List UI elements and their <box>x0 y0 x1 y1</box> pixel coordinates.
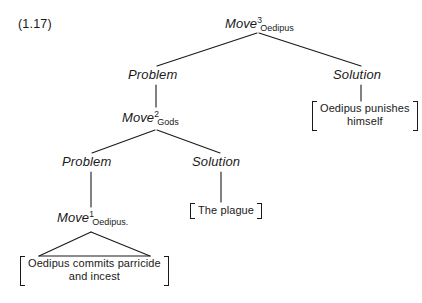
move-base-label: Move <box>57 210 89 225</box>
move-subscript: Oedipus <box>260 23 294 33</box>
bracket-group: Oedipus punishes himself <box>311 101 419 131</box>
terminal-line-1: Oedipus punishes <box>320 102 410 115</box>
terminal-line-1: The plague <box>198 204 254 217</box>
move-base-label: Move <box>122 110 154 125</box>
bracket-right-icon <box>164 256 169 286</box>
bracket-right-icon <box>413 101 418 131</box>
edge-root-to-solution <box>259 33 361 66</box>
terminal-oedipus-commits-parricide: Oedipus commits parricide and incest <box>19 256 170 289</box>
edge-move2-to-problem <box>92 130 155 153</box>
bracket-left-icon <box>20 256 25 286</box>
move-base-label: Move <box>225 16 257 31</box>
terminal-oedipus-punishes-himself: Oedipus punishes himself <box>311 101 419 134</box>
bracket-left-icon <box>312 101 317 131</box>
bracket-group: Oedipus commits parricide and incest <box>19 256 170 286</box>
node-solution-level2: Solution <box>192 155 240 168</box>
edge-move1-triangle-left <box>39 232 91 256</box>
bracket-content: Oedipus commits parricide and incest <box>26 256 163 286</box>
terminal-line-2: himself <box>320 115 410 128</box>
edge-move2-to-solution <box>157 130 220 153</box>
move-subscript: Gods <box>157 117 179 127</box>
figure-number-label: (1.17) <box>18 18 52 31</box>
node-problem-level1: Problem <box>128 68 177 81</box>
bracket-right-icon <box>257 203 262 219</box>
bracket-content: The plague <box>196 203 256 219</box>
node-problem-level2: Problem <box>62 155 111 168</box>
edge-move1-triangle-right <box>91 232 150 256</box>
node-move-3-oedipus: Move3Oedipus <box>225 16 294 33</box>
bracket-left-icon <box>190 203 195 219</box>
edge-root-to-problem <box>157 33 257 66</box>
node-move-1-oedipus: Move1Oedipus. <box>57 210 128 227</box>
node-move-2-gods: Move2Gods <box>122 110 179 127</box>
terminal-the-plague: The plague <box>189 203 263 222</box>
bracket-content: Oedipus punishes himself <box>318 101 412 131</box>
terminal-line-1: Oedipus commits parricide <box>28 257 161 270</box>
terminal-line-2: and incest <box>28 270 161 283</box>
figure-1-17: (1.17) Move3Oedipus Problem Solution Oed… <box>0 0 422 303</box>
move-subscript: Oedipus. <box>92 217 128 227</box>
bracket-group: The plague <box>189 203 263 219</box>
node-solution-level1: Solution <box>333 68 381 81</box>
